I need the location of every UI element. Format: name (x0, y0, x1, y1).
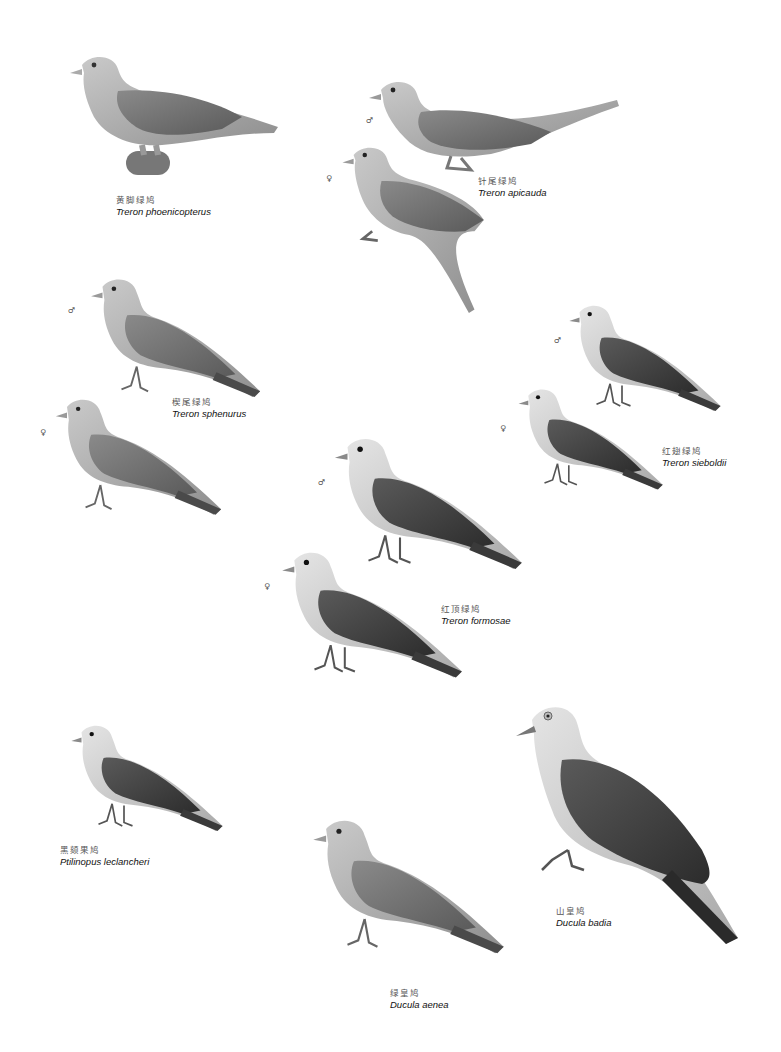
bird-illustration-ducula-aenea (294, 794, 508, 984)
species-caption: 针尾绿鸠 Treron apicauda (478, 176, 546, 199)
species-caption: 红翅绿鸠 Treron sieboldii (662, 446, 726, 469)
scientific-name: Treron sieboldii (662, 457, 726, 469)
bird-illustration-treron-apicauda-female (328, 142, 528, 328)
scientific-name: Treron apicauda (478, 187, 546, 199)
pigeon-icon (264, 544, 466, 690)
species-caption: 黄脚绿鸠 Treron phoenicopterus (116, 195, 211, 218)
chinese-name: 黑颏果鸠 (60, 845, 149, 856)
illustration-plate: 黄脚绿鸠 Treron phoenicopterus ♂ ♀ 针尾绿鸠 Trer… (0, 0, 781, 1052)
female-sex-symbol: ♀ (264, 582, 270, 591)
chinese-name: 红翅绿鸠 (662, 446, 726, 457)
species-caption: 山皇鸠 Ducula badia (556, 906, 611, 929)
scientific-name: Treron phoenicopterus (116, 206, 211, 218)
chinese-name: 红顶绿鸠 (441, 604, 511, 615)
chinese-name: 楔尾绿鸠 (172, 397, 246, 408)
scientific-name: Treron formosae (441, 615, 511, 627)
bird-illustration-ptilinopus-leclancheri (56, 708, 226, 852)
pigeon-icon (504, 382, 666, 500)
pigeon-icon (328, 142, 528, 328)
female-sex-symbol: ♀ (326, 174, 332, 183)
bird-illustration-treron-sphenurus-male (74, 272, 264, 408)
scientific-name: Ducula aenea (390, 999, 449, 1011)
male-sex-symbol: ♂ (318, 478, 325, 487)
species-caption: 绿皇鸠 Ducula aenea (390, 988, 449, 1011)
chinese-name: 针尾绿鸠 (478, 176, 546, 187)
bird-illustration-treron-sieboldii-female (504, 382, 666, 500)
female-sex-symbol: ♀ (40, 428, 46, 437)
scientific-name: Ptilinopus leclancheri (60, 856, 149, 868)
species-caption: 黑颏果鸠 Ptilinopus leclancheri (60, 845, 149, 868)
male-sex-symbol: ♂ (68, 306, 75, 315)
scientific-name: Treron sphenurus (172, 408, 246, 420)
bird-illustration-treron-phoenicopterus (62, 50, 282, 182)
male-sex-symbol: ♂ (366, 116, 373, 125)
bird-illustration-ducula-badia (512, 700, 742, 946)
pigeon-icon (56, 708, 226, 852)
pigeon-icon (74, 272, 264, 408)
scientific-name: Ducula badia (556, 917, 611, 929)
species-caption: 红顶绿鸠 Treron formosae (441, 604, 511, 627)
chinese-name: 绿皇鸠 (390, 988, 449, 999)
pigeon-icon (62, 50, 282, 182)
chinese-name: 黄脚绿鸠 (116, 195, 211, 206)
species-caption: 楔尾绿鸠 Treron sphenurus (172, 397, 246, 420)
male-sex-symbol: ♂ (554, 336, 561, 345)
bird-illustration-treron-formosae-female (264, 544, 466, 690)
pigeon-icon (512, 700, 742, 946)
chinese-name: 山皇鸠 (556, 906, 611, 917)
pigeon-icon (294, 794, 508, 984)
